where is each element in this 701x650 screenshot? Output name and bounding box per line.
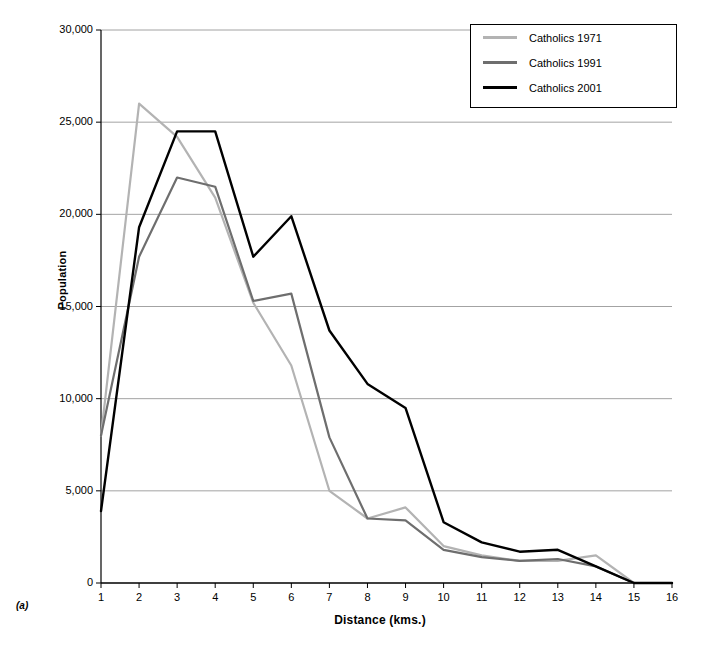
- x-tick-label: 4: [203, 591, 227, 603]
- x-tick-label: 16: [660, 591, 684, 603]
- legend-label-2001: Catholics 2001: [529, 82, 602, 94]
- legend-swatch-1991: [483, 61, 517, 64]
- legend-item: Catholics 2001: [471, 75, 676, 100]
- panel-label: (a): [16, 600, 28, 611]
- series-line: [101, 131, 672, 583]
- y-tick-label: 25,000: [41, 115, 93, 127]
- x-tick-label: 3: [165, 591, 189, 603]
- legend-item: Catholics 1971: [471, 25, 676, 50]
- chart-legend: Catholics 1971 Catholics 1991 Catholics …: [470, 24, 677, 108]
- x-tick-label: 1: [89, 591, 113, 603]
- chart-container: 05,00010,00015,00020,00025,00030,000 123…: [0, 0, 701, 650]
- x-tick-label: 13: [546, 591, 570, 603]
- x-tick-label: 6: [279, 591, 303, 603]
- series-line: [101, 178, 672, 584]
- y-tick-label: 5,000: [41, 484, 93, 496]
- y-tick-label: 0: [41, 576, 93, 588]
- x-tick-label: 15: [622, 591, 646, 603]
- x-tick-marks: [96, 30, 672, 588]
- series-line: [101, 104, 672, 583]
- series-lines: [101, 104, 672, 583]
- x-tick-label: 12: [508, 591, 532, 603]
- x-tick-label: 5: [241, 591, 265, 603]
- legend-label-1971: Catholics 1971: [529, 32, 602, 44]
- x-tick-label: 10: [432, 591, 456, 603]
- legend-item: Catholics 1991: [471, 50, 676, 75]
- x-tick-label: 7: [317, 591, 341, 603]
- legend-swatch-1971: [483, 36, 517, 39]
- x-axis-title: Distance (kms.): [100, 613, 660, 627]
- x-tick-label: 11: [470, 591, 494, 603]
- y-tick-label: 30,000: [41, 23, 93, 35]
- x-tick-label: 9: [394, 591, 418, 603]
- y-tick-label: 20,000: [41, 207, 93, 219]
- gridlines: [101, 30, 672, 583]
- legend-label-1991: Catholics 1991: [529, 57, 602, 69]
- x-tick-label: 2: [127, 591, 151, 603]
- legend-swatch-2001: [483, 86, 517, 89]
- x-tick-label: 14: [584, 591, 608, 603]
- x-tick-label: 8: [355, 591, 379, 603]
- y-axis-title: Population: [56, 220, 68, 340]
- y-tick-label: 10,000: [41, 392, 93, 404]
